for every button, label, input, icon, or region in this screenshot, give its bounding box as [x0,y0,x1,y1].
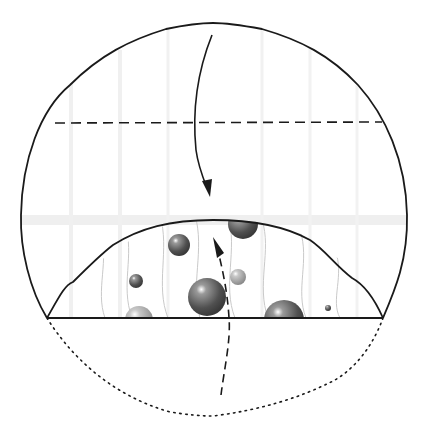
paper-shading [0,28,423,318]
diagram-canvas [0,0,423,440]
bubble [325,305,331,311]
fold-diagram: Folding step: fold top edge down, bottom… [0,0,423,440]
bubble [264,300,304,340]
hidden-flap-outline [47,318,383,416]
fold-up-arrow-icon [213,237,229,395]
bubble [168,234,190,256]
bubble [125,306,153,334]
bubbles [125,209,331,340]
bubble [188,278,226,316]
bubble [230,269,246,285]
bubble [129,274,143,288]
valley-fold-line [55,122,382,123]
outer-circle-outline [21,23,407,318]
bubble [228,209,258,239]
fold-down-arrow-icon [195,35,212,197]
